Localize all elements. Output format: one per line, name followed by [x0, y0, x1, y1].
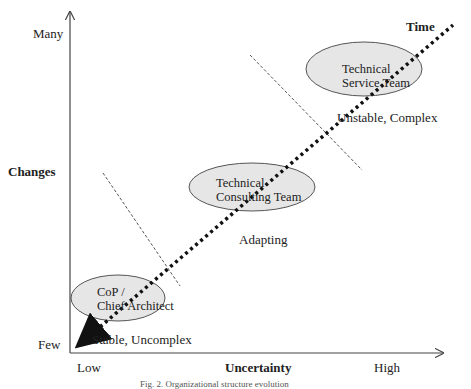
y-axis-bottom-label: Few: [38, 338, 60, 352]
y-axis-label: Changes: [8, 165, 56, 179]
time-label: Time: [406, 20, 435, 34]
ellipse-consulting-line1: Technical: [216, 176, 264, 190]
x-axis-right-label: High: [374, 361, 400, 375]
state-stable: Stable, Uncomplex: [92, 333, 192, 347]
y-axis-top-label: Many: [33, 27, 63, 41]
time-arrow: [80, 25, 453, 344]
ellipse-service-line2: Service Team: [342, 76, 410, 90]
ellipse-service-line1: Technical: [342, 62, 390, 76]
state-unstable: Unstable, Complex: [337, 111, 437, 125]
state-adapting: Adapting: [239, 233, 287, 247]
zone-divider-1: [103, 173, 180, 286]
x-axis-left-label: Low: [77, 361, 101, 375]
x-axis-label: Uncertainty: [225, 361, 291, 375]
ellipse-cop-line1: CoP /: [97, 285, 125, 299]
ellipse-cop-line2: Chief Architect: [97, 299, 174, 313]
ellipse-consulting-line2: Consulting Team: [216, 190, 301, 204]
figure-caption: Fig. 2. Organizational structure evoluti…: [140, 379, 289, 389]
